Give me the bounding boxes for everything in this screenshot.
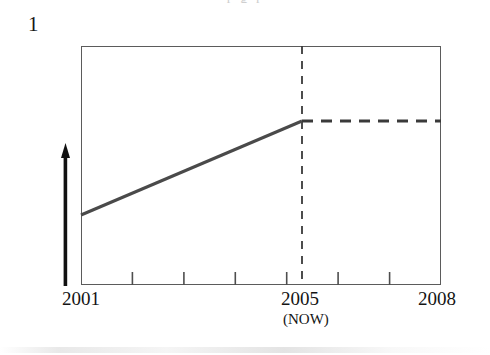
y-axis-title: Advertising spending [0,44,25,180]
figure-number: 1 [28,14,39,35]
scan-artifact-band [0,347,490,353]
x-tick-sublabel-now: (NOW) [283,310,329,328]
figure-container: r g r 1 Advertising spending 2001 2005 [0,0,490,355]
up-arrow-icon [61,143,70,286]
x-tick-label-now: 2005 [281,288,319,310]
plot-frame [81,46,441,285]
page-text-bleed: r g r [0,0,490,3]
x-tick-label-end: 2008 [418,288,456,310]
x-tick-label-start: 2001 [62,288,100,310]
